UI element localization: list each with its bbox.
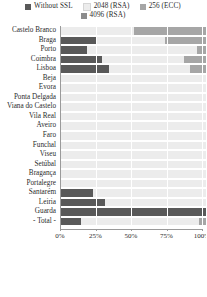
legend-swatch-icon (140, 4, 146, 10)
category-label: Viana do Castelo (0, 102, 60, 112)
bar-segment[interactable] (190, 65, 206, 73)
bar-segment[interactable] (109, 65, 190, 73)
bar-segment[interactable] (61, 46, 87, 54)
chart-row: Faro (0, 131, 206, 141)
x-tick-mark (131, 229, 132, 231)
bar-track (60, 102, 206, 112)
bar-segment[interactable] (61, 218, 81, 226)
bar-track (60, 188, 206, 198)
legend-swatch-icon (83, 3, 91, 11)
bar-track (60, 217, 206, 227)
category-label: Aveiro (0, 121, 60, 131)
x-tick-label: 0% (55, 231, 64, 241)
legend-label: 4096 (RSA) (90, 11, 126, 20)
bar-track (60, 36, 206, 46)
x-tick-mark (60, 229, 61, 231)
bar-segment[interactable] (61, 37, 97, 45)
bar-track (60, 121, 206, 131)
bar-segment[interactable] (61, 103, 206, 111)
bar-segment[interactable] (61, 208, 206, 216)
category-label: Castelo Branco (0, 26, 60, 36)
bar-segment[interactable] (61, 27, 134, 35)
chart-row: Portalegre (0, 179, 206, 189)
legend-swatch-icon (81, 13, 87, 19)
bar-segment[interactable] (97, 37, 165, 45)
bar-track (60, 207, 206, 217)
x-tick-label: 75% (160, 231, 173, 241)
bar-segment[interactable] (134, 27, 207, 35)
bar-segment[interactable] (81, 218, 198, 226)
legend-label: 2048 (RSA) (94, 2, 130, 11)
bar-segment[interactable] (61, 65, 109, 73)
bar-track (60, 83, 206, 93)
category-label: Leiria (0, 198, 60, 208)
bar-rows: Castelo BrancoBragaPortoCoimbraLisboaBej… (0, 26, 206, 226)
category-label: Portalegre (0, 179, 60, 189)
category-label: Faro (0, 131, 60, 141)
chart-row: Ponta Delgada (0, 93, 206, 103)
chart-row: Leiria (0, 198, 206, 208)
bar-track (60, 26, 206, 36)
bar-segment[interactable] (61, 94, 206, 102)
x-tick-label: 100% (194, 231, 206, 241)
bar-segment[interactable] (199, 218, 206, 226)
legend-item[interactable]: Without SSL (25, 2, 73, 11)
chart-row: Setúbal (0, 160, 206, 170)
legend-swatch-icon (25, 4, 31, 10)
bar-segment[interactable] (61, 132, 206, 140)
bar-segment[interactable] (61, 142, 206, 150)
bar-track (60, 141, 206, 151)
bar-track (60, 160, 206, 170)
chart-row: Beja (0, 74, 206, 84)
chart-row: Guarda (0, 207, 206, 217)
bar-track (60, 74, 206, 84)
chart-row: Évora (0, 83, 206, 93)
chart-row: Lisboa (0, 64, 206, 74)
category-label: Évora (0, 83, 60, 93)
legend-item[interactable]: 4096 (RSA) (81, 11, 126, 20)
bar-segment[interactable] (102, 56, 185, 64)
category-label: Beja (0, 74, 60, 84)
bar-track (60, 198, 206, 208)
bar-segment[interactable] (61, 161, 206, 169)
bar-segment[interactable] (87, 46, 197, 54)
bar-segment[interactable] (61, 75, 206, 83)
bar-segment[interactable] (197, 46, 206, 54)
plot-area: Castelo BrancoBragaPortoCoimbraLisboaBej… (0, 26, 206, 297)
legend-item[interactable]: 2048 (RSA) (83, 2, 130, 11)
bar-segment[interactable] (61, 56, 102, 64)
bar-segment[interactable] (61, 151, 206, 159)
x-tick-mark (96, 229, 97, 231)
x-axis-ticks: 0%25%50%75%100% (60, 231, 202, 243)
bar-track (60, 93, 206, 103)
bar-segment[interactable] (165, 37, 206, 45)
legend-label: Without SSL (34, 2, 73, 11)
x-tick-mark (202, 229, 203, 231)
chart-row: Bragança (0, 169, 206, 179)
bar-segment[interactable] (61, 84, 206, 92)
category-label: Porto (0, 45, 60, 55)
bar-track (60, 150, 206, 160)
category-label: Santarém (0, 188, 60, 198)
category-label: Bragança (0, 169, 60, 179)
bar-segment[interactable] (93, 189, 206, 197)
bar-track (60, 179, 206, 189)
bar-segment[interactable] (61, 180, 206, 188)
bar-segment[interactable] (105, 199, 207, 207)
bar-segment[interactable] (61, 122, 206, 130)
category-label: Setúbal (0, 160, 60, 170)
category-label: Viseu (0, 150, 60, 160)
bar-segment[interactable] (61, 170, 206, 178)
category-label: Vila Real (0, 112, 60, 122)
category-label: Guarda (0, 207, 60, 217)
chart-row: Viseu (0, 150, 206, 160)
bar-segment[interactable] (61, 113, 206, 121)
chart-row: Santarém (0, 188, 206, 198)
bar-segment[interactable] (61, 199, 105, 207)
bar-segment[interactable] (61, 189, 93, 197)
chart-row: Coimbra (0, 55, 206, 65)
legend-item[interactable]: 256 (ECC) (140, 2, 181, 11)
bar-segment[interactable] (184, 56, 206, 64)
chart-row: Porto (0, 45, 206, 55)
chart-row: Aveiro (0, 121, 206, 131)
